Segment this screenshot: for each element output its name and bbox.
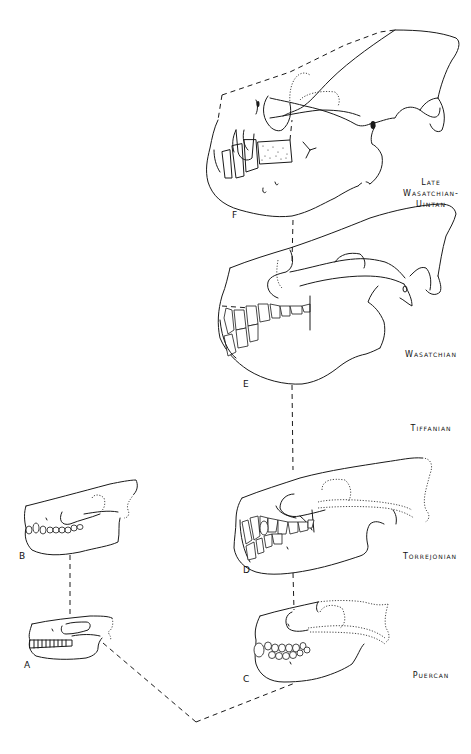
skull-c	[254, 601, 389, 683]
skull-b	[25, 480, 138, 555]
line-d-c	[293, 573, 294, 610]
stage-label-tiffanian: Tiffanian	[392, 423, 470, 434]
stage-label-puercan: Puercan	[392, 670, 470, 681]
figure-drawing	[0, 0, 471, 754]
stage-label-torrejonian: Torrejonian	[390, 551, 470, 562]
line-e-d	[292, 385, 293, 470]
specimen-label-c: C	[243, 674, 249, 684]
specimen-label-e: E	[243, 379, 249, 389]
skull-evolution-figure: F E D C B A Late Wasatchian- Uintan Wasa…	[0, 0, 471, 754]
specimen-label-f: F	[232, 210, 237, 220]
line-c-root	[196, 683, 295, 722]
stage-line-uintan: Uintan	[392, 199, 470, 210]
line-a-root	[103, 643, 196, 722]
stage-label-late-wasatchian-uintan: Late Wasatchian- Uintan	[392, 177, 470, 210]
stage-line-late: Late	[392, 177, 470, 188]
specimen-label-b: B	[19, 551, 25, 561]
stage-label-wasatchian: Wasatchian	[392, 349, 470, 360]
specimen-label-d: D	[243, 565, 250, 575]
specimen-label-a: A	[24, 660, 30, 670]
skull-a	[29, 616, 113, 659]
stage-line-wasatchian-dash: Wasatchian-	[392, 188, 470, 199]
